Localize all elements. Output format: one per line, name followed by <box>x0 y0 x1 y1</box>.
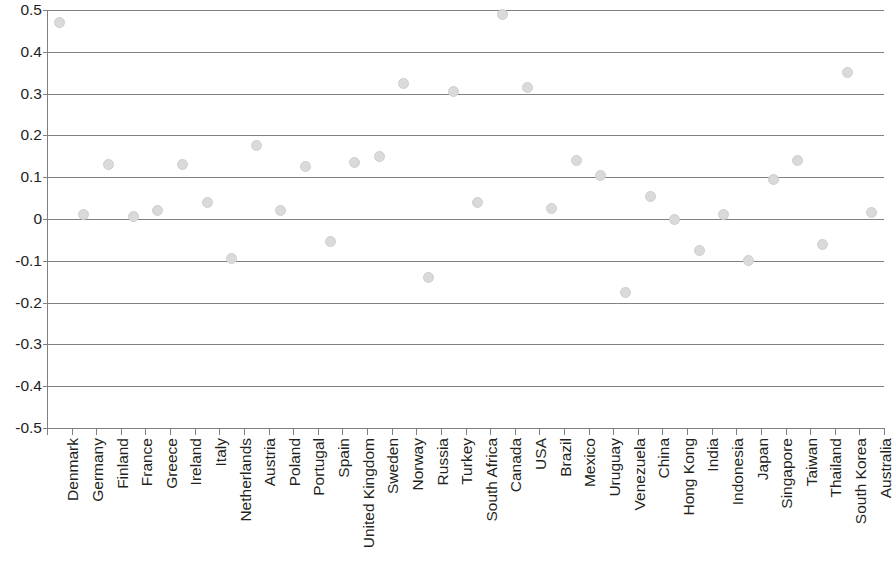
x-axis-tick-mark <box>515 428 516 435</box>
x-axis-tick-mark <box>761 428 762 435</box>
data-point <box>595 170 606 181</box>
data-point <box>522 82 533 93</box>
x-axis-tick-label: South Africa <box>484 438 500 522</box>
data-point <box>448 86 459 97</box>
x-axis-tick-label: Ireland <box>188 438 204 485</box>
gridline <box>47 94 884 95</box>
x-axis-tick-mark <box>810 428 811 435</box>
y-axis-tick-label: 0.2 <box>0 128 42 144</box>
x-axis-tick-mark <box>96 428 97 435</box>
data-point <box>226 253 237 264</box>
gridline <box>47 386 884 387</box>
x-axis-tick-mark <box>293 428 294 435</box>
x-axis-tick-label: Denmark <box>65 438 81 501</box>
x-axis-tick-label: China <box>656 438 672 479</box>
x-axis-tick-mark <box>859 428 860 435</box>
y-axis-tick-label: -0.2 <box>0 295 42 311</box>
x-axis-tick-label: Portugal <box>311 438 327 496</box>
x-axis-tick-label: South Korea <box>853 438 869 524</box>
x-axis-tick-label: Turkey <box>459 438 475 485</box>
y-axis-tick-label: 0.3 <box>0 86 42 102</box>
x-axis-tick-label: Brazil <box>558 438 574 477</box>
x-axis-tick-label: Japan <box>755 438 771 480</box>
data-point <box>423 272 434 283</box>
data-point <box>349 157 360 168</box>
data-point <box>669 214 680 225</box>
x-axis-tick-label: Russia <box>435 438 451 485</box>
x-axis-tick-label: Finland <box>115 438 131 489</box>
gridline <box>47 303 884 304</box>
x-axis-tick-label: Spain <box>336 438 352 478</box>
x-axis-tick-label: Germany <box>90 438 106 502</box>
gridline <box>47 219 884 220</box>
x-axis-tick-label: India <box>705 438 721 472</box>
data-point <box>694 245 705 256</box>
data-point <box>103 159 114 170</box>
x-axis-tick-mark <box>441 428 442 435</box>
data-point <box>842 67 853 78</box>
x-axis-tick-mark <box>490 428 491 435</box>
data-point <box>546 203 557 214</box>
gridline <box>47 52 884 53</box>
x-axis-tick-mark <box>564 428 565 435</box>
x-axis-tick-mark <box>613 428 614 435</box>
data-point <box>325 236 336 247</box>
x-axis-tick-mark <box>884 428 885 435</box>
data-point <box>743 255 754 266</box>
gridline <box>47 261 884 262</box>
y-axis-tick-label: -0.1 <box>0 253 42 269</box>
x-axis-tick-mark <box>687 428 688 435</box>
data-point <box>300 161 311 172</box>
data-point <box>374 151 385 162</box>
x-axis-tick-label: Greece <box>164 438 180 489</box>
gridline <box>47 10 884 11</box>
x-axis-tick-label: France <box>139 438 155 486</box>
x-axis-tick-mark <box>145 428 146 435</box>
x-axis-tick-mark <box>638 428 639 435</box>
y-axis-tick-label: 0.4 <box>0 44 42 60</box>
data-point <box>792 155 803 166</box>
data-point <box>275 205 286 216</box>
x-axis-tick-label: Austria <box>262 438 278 486</box>
data-point <box>866 207 877 218</box>
x-axis-tick-mark <box>121 428 122 435</box>
data-point <box>54 17 65 28</box>
x-axis-tick-label: Norway <box>410 438 426 491</box>
gridline <box>47 344 884 345</box>
x-axis-tick-label: Netherlands <box>238 438 254 522</box>
x-axis-tick-mark <box>342 428 343 435</box>
data-point <box>817 239 828 250</box>
x-axis-tick-mark <box>786 428 787 435</box>
data-point <box>251 140 262 151</box>
x-axis-tick-mark <box>318 428 319 435</box>
data-point <box>128 211 139 222</box>
x-axis-tick-mark <box>47 428 48 435</box>
x-axis-tick-mark <box>736 428 737 435</box>
data-point <box>177 159 188 170</box>
x-axis-tick-label: Italy <box>213 438 229 466</box>
x-axis-tick-mark <box>195 428 196 435</box>
x-axis-tick-label: Poland <box>287 438 303 486</box>
gridline <box>47 177 884 178</box>
data-point <box>202 197 213 208</box>
x-axis-tick-mark <box>466 428 467 435</box>
x-axis-tick-label: Uruguay <box>607 438 623 497</box>
x-axis-tick-mark <box>244 428 245 435</box>
x-axis-tick-label: Indonesia <box>730 438 746 505</box>
y-axis-tick-label: 0.5 <box>0 2 42 18</box>
x-axis-tick-label: Taiwan <box>804 438 820 486</box>
x-axis-tick-mark <box>367 428 368 435</box>
x-axis-tick-label: Venezuela <box>632 438 648 510</box>
data-point <box>497 9 508 20</box>
data-point <box>398 78 409 89</box>
x-axis-tick-label: USA <box>533 438 549 470</box>
gridline <box>47 135 884 136</box>
x-axis-tick-label: Australia <box>878 438 894 498</box>
x-axis-tick-mark <box>712 428 713 435</box>
x-axis-tick-mark <box>835 428 836 435</box>
data-point <box>645 191 656 202</box>
x-axis-tick-mark <box>72 428 73 435</box>
x-axis-tick-mark <box>170 428 171 435</box>
x-axis-tick-mark <box>219 428 220 435</box>
